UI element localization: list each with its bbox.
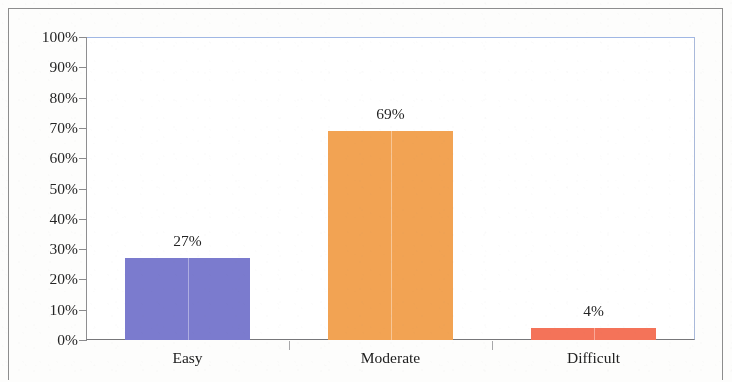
y-axis-tick-mark <box>79 67 87 68</box>
bar-difficult <box>531 328 656 340</box>
x-axis-category-label: Easy <box>172 349 202 367</box>
bar-value-label: 69% <box>376 105 404 123</box>
y-axis-tick-mark <box>79 128 87 129</box>
category-divider-tick <box>492 341 493 350</box>
category-divider-tick <box>289 341 290 350</box>
bar-moderate <box>328 131 453 340</box>
y-axis-tick-mark <box>79 158 87 159</box>
y-axis-tick-mark <box>79 98 87 99</box>
bar-value-label: 27% <box>173 232 201 250</box>
y-axis-tick-label: 50% <box>16 180 78 198</box>
bar-easy <box>125 258 250 340</box>
bar-seam-line <box>391 131 392 340</box>
x-axis-category-label: Difficult <box>567 349 620 367</box>
y-axis-tick-mark <box>79 340 87 341</box>
y-axis-tick-mark <box>79 279 87 280</box>
y-axis-tick-label: 80% <box>16 89 78 107</box>
y-axis-tick-mark <box>79 249 87 250</box>
bar-seam-line <box>594 328 595 340</box>
y-axis-tick-label: 70% <box>16 119 78 137</box>
y-axis-tick-label: 30% <box>16 240 78 258</box>
x-axis-category-label: Moderate <box>361 349 420 367</box>
scanned-page: 0%10%20%30%40%50%60%70%80%90%100% 27%69%… <box>0 0 732 382</box>
y-axis-tick-label: 90% <box>16 58 78 76</box>
y-axis: 0%10%20%30%40%50%60%70%80%90%100% <box>0 0 86 382</box>
y-axis-tick-label: 10% <box>16 301 78 319</box>
y-axis-tick-mark <box>79 189 87 190</box>
y-axis-tick-mark <box>79 219 87 220</box>
y-axis-tick-label: 40% <box>16 210 78 228</box>
y-axis-tick-label: 100% <box>16 28 78 46</box>
bar-value-label: 4% <box>583 302 604 320</box>
y-axis-tick-label: 20% <box>16 270 78 288</box>
y-axis-tick-label: 60% <box>16 149 78 167</box>
y-axis-tick-mark <box>79 310 87 311</box>
y-axis-tick-mark <box>79 37 87 38</box>
bar-seam-line <box>188 258 189 340</box>
y-axis-tick-label: 0% <box>16 331 78 349</box>
chart-figure: 0%10%20%30%40%50%60%70%80%90%100% 27%69%… <box>0 0 732 382</box>
